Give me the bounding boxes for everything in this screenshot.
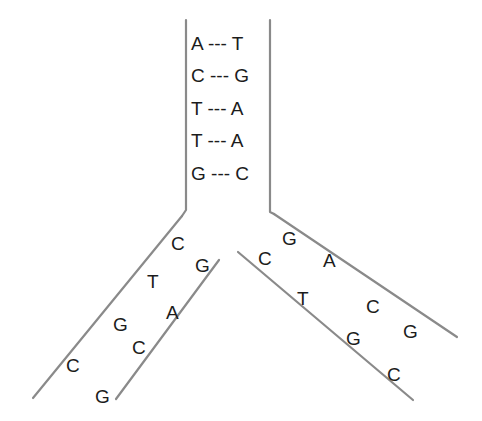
left-arm-outer-strand: [33, 216, 182, 398]
right-outer-base-1: G: [282, 228, 297, 249]
right-outer-base-4: G: [403, 321, 418, 342]
left-inner-base-2: A: [166, 302, 179, 323]
base-pair-2: C --- G: [191, 65, 249, 86]
parent-right-strand: [270, 20, 274, 214]
parent-duplex: A --- T C --- G T --- A T --- A G --- C: [182, 20, 274, 216]
base-pair-5: G --- C: [191, 163, 249, 184]
left-inner-base-1: G: [195, 255, 210, 276]
left-outer-base-2: T: [147, 271, 159, 292]
right-inner-base-4: C: [387, 364, 401, 385]
right-outer-base-2: A: [323, 250, 336, 271]
left-inner-base-4: G: [95, 386, 110, 407]
left-arm: C T G C G A C G: [33, 216, 219, 407]
left-arm-inner-strand: [116, 260, 219, 399]
left-outer-base-3: G: [113, 314, 128, 335]
right-arm: G A C G C T G C: [238, 214, 457, 400]
base-pair-1: A --- T: [191, 33, 244, 54]
right-inner-base-2: T: [297, 288, 309, 309]
left-outer-base-4: C: [66, 355, 80, 376]
base-pair-3: T --- A: [191, 98, 244, 119]
right-arm-outer-strand: [274, 214, 457, 337]
left-inner-base-3: C: [132, 337, 146, 358]
right-outer-base-3: C: [366, 296, 380, 317]
parent-left-strand: [182, 20, 186, 216]
left-outer-base-1: C: [171, 233, 185, 254]
base-pair-4: T --- A: [191, 130, 244, 151]
replication-fork-diagram: A --- T C --- G T --- A T --- A G --- C …: [0, 0, 482, 421]
right-inner-base-1: C: [258, 248, 272, 269]
right-inner-base-3: G: [346, 328, 361, 349]
